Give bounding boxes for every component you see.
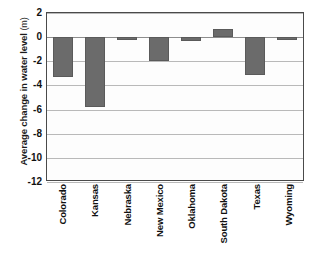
bar[interactable] <box>213 29 233 37</box>
bar-slot <box>79 13 111 180</box>
y-tick-label: -8 <box>14 127 42 138</box>
y-tick-label: 2 <box>14 7 42 18</box>
bars-layer <box>47 13 303 180</box>
x-slot: Texas <box>240 181 272 255</box>
x-tick-label: South Dakota <box>218 184 229 243</box>
x-slot: Oklahoma <box>175 181 207 255</box>
bar[interactable] <box>149 37 169 61</box>
plot-area <box>46 12 304 181</box>
y-tick-label: -12 <box>14 176 42 187</box>
bar[interactable] <box>245 37 265 74</box>
x-tick-label: Colorado <box>57 184 68 225</box>
x-slot: Nebraska <box>111 181 143 255</box>
x-tick-label: Texas <box>250 184 261 209</box>
y-tick-label: -4 <box>14 79 42 90</box>
bar-chart: Average change in water level (m) 20-2-4… <box>0 0 312 255</box>
bar[interactable] <box>277 37 297 40</box>
bar-slot <box>143 13 175 180</box>
x-tick-label: Nebraska <box>121 184 132 226</box>
bar-slot <box>271 13 303 180</box>
bar-slot <box>207 13 239 180</box>
bar-slot <box>111 13 143 180</box>
bar-slot <box>239 13 271 180</box>
bar[interactable] <box>117 37 137 40</box>
x-slot: Colorado <box>46 181 78 255</box>
x-slot: New Mexico <box>143 181 175 255</box>
x-slot: South Dakota <box>207 181 239 255</box>
x-axis-tick-labels: ColoradoKansasNebraskaNew MexicoOklahoma… <box>46 181 304 255</box>
x-slot: Wyoming <box>272 181 304 255</box>
bar[interactable] <box>53 37 73 77</box>
y-tick-label: -6 <box>14 103 42 114</box>
bar-slot <box>47 13 79 180</box>
x-slot: Kansas <box>78 181 110 255</box>
bar[interactable] <box>181 37 201 41</box>
y-tick-label: -10 <box>14 151 42 162</box>
x-tick-label: New Mexico <box>153 184 164 237</box>
x-tick-label: Kansas <box>89 184 100 217</box>
y-tick-label: -2 <box>14 55 42 66</box>
bar[interactable] <box>85 37 105 107</box>
x-tick-label: Oklahoma <box>186 184 197 229</box>
bar-slot <box>175 13 207 180</box>
y-tick-label: 0 <box>14 31 42 42</box>
x-tick-label: Wyoming <box>282 184 293 226</box>
y-axis-tick-labels: 20-2-4-6-8-10-12 <box>14 0 42 255</box>
